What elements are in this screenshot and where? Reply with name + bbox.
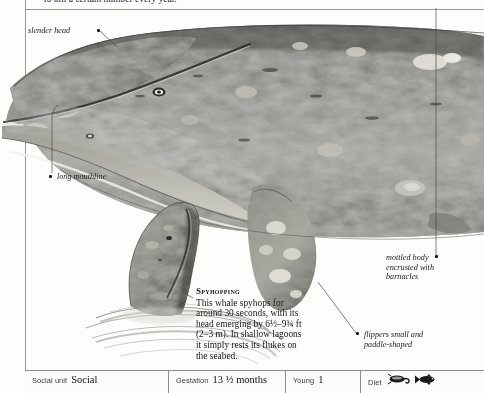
- label-slender-head: slender head: [28, 26, 70, 36]
- data-cell-gestation: Gestation 13 ½ months: [168, 371, 285, 393]
- caption-body: This whale spyhops for around 30 seconds…: [196, 298, 308, 362]
- field-value-young: 1: [318, 374, 323, 385]
- left-margin-rule: [25, 0, 26, 370]
- species-data-bar: Social unit Social Gestation 13 ½ months…: [25, 370, 484, 393]
- caption-heading: Spyhopping: [196, 286, 308, 297]
- field-label-young: Young: [293, 376, 314, 385]
- data-cell-social-unit: Social unit Social: [25, 371, 168, 393]
- field-label-gestation: Gestation: [176, 376, 209, 385]
- label-dot-slender-head: [97, 29, 100, 32]
- diet-icon-group: [388, 374, 437, 385]
- label-dot-flippers: [356, 332, 359, 335]
- label-dot-mottled-body: [435, 255, 438, 258]
- spyhopping-caption: Spyhopping This whale spyhops for around…: [196, 286, 308, 361]
- label-long-mouthline: long mouthline: [57, 172, 106, 182]
- label-mottled-body: mottled body encrusted with barnacles: [386, 253, 434, 282]
- field-value-gestation: 13 ½ months: [213, 374, 268, 385]
- label-flippers: flippers small and paddle-shaped: [364, 330, 423, 349]
- crustacean-icon: [388, 374, 410, 385]
- fish-icon: [415, 374, 437, 385]
- field-label-social-unit: Social unit: [32, 376, 67, 385]
- data-cell-diet: Diet: [360, 371, 484, 393]
- running-text: to kill a certain number every year.: [44, 0, 234, 5]
- field-label-diet: Diet: [368, 378, 382, 387]
- data-cell-young: Young 1: [285, 371, 360, 393]
- field-value-social-unit: Social: [71, 374, 97, 385]
- label-dot-long-mouthline: [49, 175, 52, 178]
